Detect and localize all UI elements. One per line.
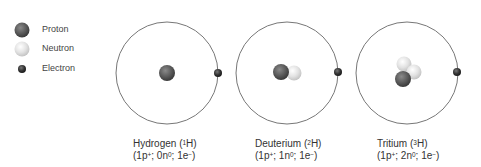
tritium-caption: Tritium (3H) (1p+; 2n0; 1e−) xyxy=(377,138,439,162)
caption-composition: (1p+; 0n0; 1e−) xyxy=(133,150,197,162)
proton-icon xyxy=(14,22,34,38)
tritium-atom xyxy=(356,22,461,124)
caption-title: Tritium (3H) xyxy=(377,138,439,150)
hydrogen-caption: Hydrogen (1H) (1p+; 0n0; 1e−) xyxy=(133,138,197,162)
caption-title: Deuterium (2H) xyxy=(255,138,321,150)
hydrogen-atom xyxy=(116,22,222,124)
proton-icon xyxy=(273,64,289,80)
deuterium-caption: Deuterium (2H) (1p+; 1n0; 1e−) xyxy=(255,138,321,162)
proton-icon xyxy=(395,71,411,87)
caption-composition: (1p+; 2n0; 1e−) xyxy=(377,150,439,162)
electron-icon xyxy=(334,68,342,76)
proton-icon xyxy=(159,65,175,81)
electron-icon xyxy=(453,68,461,76)
neutron-icon xyxy=(14,41,34,57)
deuterium-atom xyxy=(236,22,342,124)
caption-composition: (1p+; 1n0; 1e−) xyxy=(255,150,321,162)
legend-label: Neutron xyxy=(42,41,74,55)
electron-icon xyxy=(14,61,34,77)
legend-label: Proton xyxy=(42,22,69,36)
caption-title: Hydrogen (1H) xyxy=(133,138,197,150)
electron-icon xyxy=(214,69,222,77)
legend-label: Electron xyxy=(42,61,75,75)
